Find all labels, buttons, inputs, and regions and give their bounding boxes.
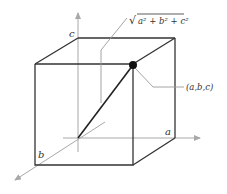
axis-a-label: a [165,126,171,137]
point-label: (a,b,c) [186,82,213,92]
cube-diagonal-diagram: a b c (a,b,c) √ a² + b² + c² [0,0,227,194]
cube-top-right-edge [133,38,175,64]
cube-top-left-edge [35,38,78,64]
cube-front-face [35,64,133,165]
sqrt-symbol: √ [129,14,137,27]
axis-b [15,122,105,180]
point-leader-line [135,68,184,87]
axis-b-label: b [38,149,44,160]
point-marker [129,61,137,69]
cube-bottom-right-edge [133,138,175,165]
axis-c-label: c [69,28,75,39]
space-diagonal [78,65,133,138]
diagonal-formula: √ a² + b² + c² [129,14,189,27]
formula-radicand: a² + b² + c² [138,16,189,26]
